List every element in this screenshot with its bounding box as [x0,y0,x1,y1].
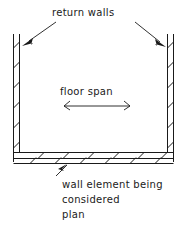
wall-element-leader-arrowhead [58,164,67,171]
right-return-wall [168,34,174,162]
wall-element-leader-stroke [56,165,67,176]
plan-diagram-figure: return walls [0,0,194,230]
floor-span-label: floor span [60,86,113,97]
floor-span-arrowhead-right [124,101,130,110]
wall-element-label-line2: considered [62,194,120,205]
diagram-canvas: return walls [0,0,194,230]
right-wall-hatching [168,42,174,148]
left-return-wall [14,34,20,162]
wall-element-leader-line [56,164,67,176]
floor-span-arrowhead-left [64,101,70,110]
floor-span-double-arrow [64,101,130,110]
wall-element-label-line1: wall element being [62,179,163,190]
return-walls-label: return walls [52,7,114,18]
bottom-wall-element [14,153,174,164]
left-return-wall-leader-arrow [22,22,56,46]
right-return-wall-leader-arrow [135,22,166,47]
right-leader-arrowhead [155,39,166,47]
right-leader-line [135,22,160,42]
left-wall-hatching [14,42,20,148]
left-leader-arrowhead [22,38,33,46]
left-leader-line [29,22,56,41]
plan-label: plan [62,209,85,220]
